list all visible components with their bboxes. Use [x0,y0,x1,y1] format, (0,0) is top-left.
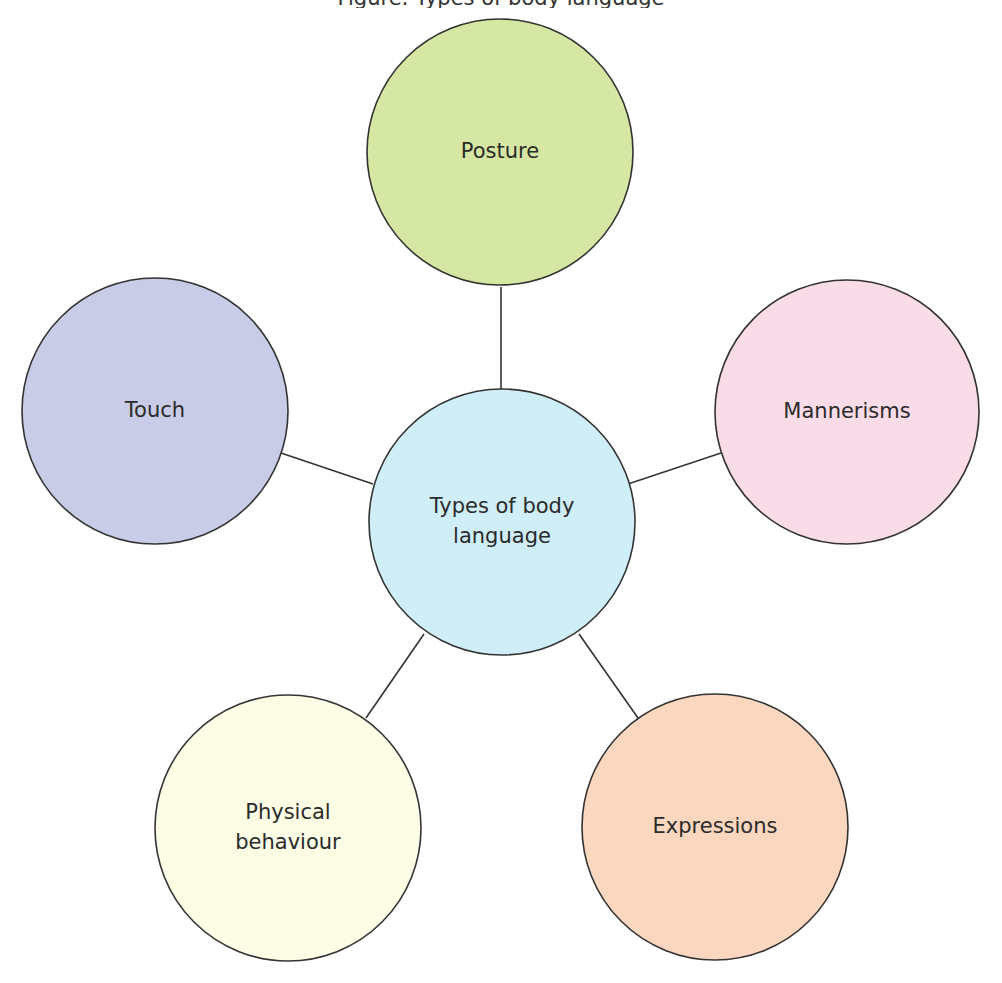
node-label-line: Types of body [429,494,575,518]
node-label-line: behaviour [235,830,341,854]
node-label-line: language [453,524,551,548]
node-label: Posture [461,139,539,163]
connector-mannerisms [628,453,721,484]
node-label-line: Touch [124,398,185,422]
node-center-types-of-body-language: Types of bodylanguage [369,389,635,655]
connector-physical-behaviour [366,634,424,718]
connector-touch [281,453,373,484]
connector-expressions [579,634,638,718]
node-touch: Touch [22,278,288,544]
node-mannerisms: Mannerisms [715,280,979,544]
mind-map-diagram: Posture Touch Mannerisms Physicalbehavio… [0,0,1002,983]
node-label-line: Expressions [653,814,778,838]
node-circle [155,695,421,961]
node-physical-behaviour: Physicalbehaviour [155,695,421,961]
node-label-line: Mannerisms [783,399,910,423]
node-label: Expressions [653,814,778,838]
node-label: Mannerisms [783,399,910,423]
node-circle [369,389,635,655]
node-label-line: Posture [461,139,539,163]
node-expressions: Expressions [582,694,848,960]
node-label: Touch [124,398,185,422]
node-posture: Posture [367,19,633,285]
node-label-line: Physical [245,800,330,824]
